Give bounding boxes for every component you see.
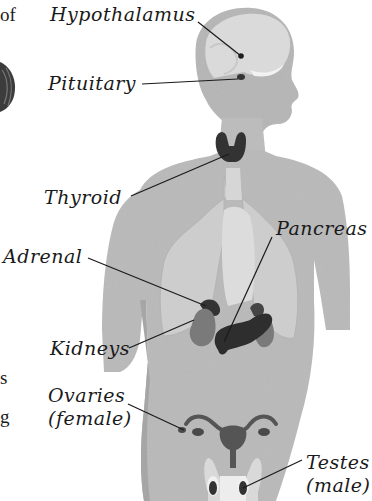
label-pituitary: Pituitary — [48, 72, 136, 94]
label-hypothalamus: Hypothalamus — [50, 3, 196, 25]
label-testes-subtext: (male) — [306, 474, 371, 496]
label-testes: Testes — [306, 451, 370, 473]
label-ovaries-subtext: (female) — [48, 407, 132, 429]
label-kidneys: Kidneys — [50, 337, 130, 359]
margin-text-fragment: s — [0, 367, 7, 389]
shell-fragment-icon — [0, 62, 15, 112]
margin-text-fragment: g — [0, 406, 10, 428]
label-thyroid: Thyroid — [44, 186, 122, 208]
label-pancreas: Pancreas — [276, 217, 368, 239]
pituitary-gland — [237, 74, 245, 80]
margin-text-fragment: of — [0, 4, 16, 26]
label-ovaries: Ovaries — [48, 384, 125, 406]
endocrine-diagram: of s g Hypothalamus Pituitary Thyroid Pa… — [0, 0, 372, 501]
label-adrenal: Adrenal — [3, 245, 82, 267]
